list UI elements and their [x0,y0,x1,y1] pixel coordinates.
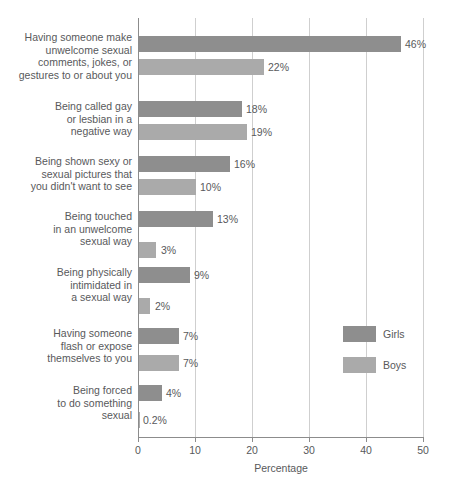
gridline-10 [195,18,196,437]
category-label-6: Being forced to do something sexual [10,384,132,422]
x-tick-label-40: 40 [360,444,372,456]
bar-value-boys-5: 7% [183,355,198,371]
tick-mark-0 [138,437,139,442]
bar-value-girls-2: 16% [234,156,255,172]
x-tick-label-50: 50 [417,444,429,456]
bar-girls-2 [139,156,230,172]
x-tick-label-20: 20 [246,444,258,456]
bar-value-boys-1: 19% [251,124,272,140]
tick-mark-10 [195,437,196,442]
gridline-20 [252,18,253,437]
y-axis-line [138,18,139,437]
x-tick-label-10: 10 [189,444,201,456]
bar-girls-6 [139,385,162,401]
tick-mark-40 [366,437,367,442]
bar-value-boys-0: 22% [268,59,289,75]
bar-girls-4 [139,267,190,283]
bar-boys-3 [139,242,156,258]
category-label-5: Having someone flash or expose themselve… [10,327,132,365]
x-axis-title: Percentage [138,462,424,474]
bar-value-girls-1: 18% [246,101,267,117]
category-label-0: Having someone make unwelcome sexual com… [10,31,132,81]
bar-value-girls-4: 9% [194,267,209,283]
tick-mark-20 [252,437,253,442]
bar-boys-2 [139,179,196,195]
bar-value-girls-0: 46% [405,36,426,52]
tick-mark-30 [309,437,310,442]
bar-boys-5 [139,355,179,371]
tick-mark-50 [423,437,424,442]
bar-boys-6 [139,412,140,428]
gridline-40 [366,18,367,437]
category-label-1: Being called gay or lesbian in a negativ… [10,100,132,138]
bar-value-boys-4: 2% [155,298,170,314]
legend-label-girls: Girls [383,326,405,342]
bar-girls-0 [139,36,401,52]
legend-label-boys: Boys [383,357,406,373]
x-axis-line [138,437,424,438]
bar-value-girls-3: 13% [217,211,238,227]
legend-swatch-boys-icon [343,357,376,373]
bar-girls-3 [139,211,213,227]
bar-value-girls-5: 7% [183,328,198,344]
category-label-4: Being physically intimidated in a sexual… [10,266,132,304]
bar-girls-5 [139,328,179,344]
x-tick-label-30: 30 [303,444,315,456]
bar-value-boys-2: 10% [200,179,221,195]
bar-boys-4 [139,298,150,314]
bar-value-girls-6: 4% [166,385,181,401]
gridline-30 [309,18,310,437]
legend-swatch-girls-icon [343,326,376,342]
bar-value-boys-6: 0.2% [143,412,167,428]
x-tick-label-0: 0 [135,444,141,456]
bar-value-boys-3: 3% [161,242,176,258]
category-label-2: Being shown sexy or sexual pictures that… [10,155,132,193]
category-label-3: Being touched in an unwelcome sexual way [10,210,132,248]
bar-chart: 0 10 20 30 40 50 Percentage Having someo… [0,0,452,488]
gridline-50 [423,18,424,437]
bar-girls-1 [139,101,242,117]
bar-boys-0 [139,59,264,75]
bar-boys-1 [139,124,247,140]
